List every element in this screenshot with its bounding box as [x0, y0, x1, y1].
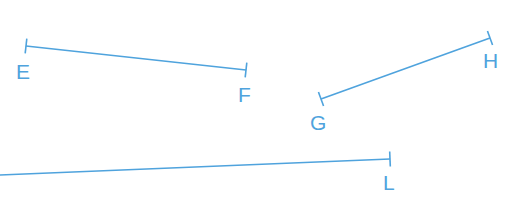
- segment-ef: EF: [16, 39, 251, 106]
- segment-l: L: [0, 152, 395, 194]
- point-label-g: G: [310, 111, 327, 134]
- segment-gh: GH: [310, 31, 499, 134]
- segment-ef-line: [26, 46, 246, 70]
- point-label-e: E: [16, 60, 31, 83]
- line-segments-figure: EFGHL: [0, 0, 526, 223]
- segment-ef-end-tick: [245, 63, 247, 78]
- figure-canvas: EFGHL: [0, 0, 526, 223]
- segment-l-line: [0, 159, 390, 175]
- point-label-l: L: [383, 171, 395, 194]
- segment-l-end-tick: [390, 152, 391, 167]
- point-label-h: H: [483, 49, 499, 72]
- point-label-f: F: [238, 83, 251, 106]
- segment-gh-line: [321, 38, 490, 99]
- segment-ef-start-tick: [25, 39, 27, 54]
